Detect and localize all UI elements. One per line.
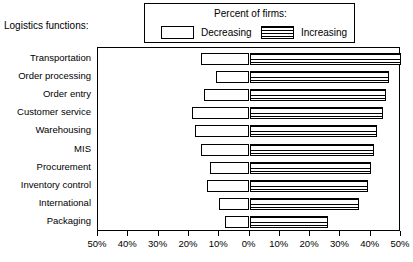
bar-decreasing bbox=[192, 107, 250, 119]
chart-root: Logistics functions: Percent of firms: D… bbox=[0, 0, 413, 262]
legend-label-increasing: Increasing bbox=[301, 27, 347, 38]
bar-row bbox=[98, 53, 399, 65]
x-axis-tick-label: 40% bbox=[355, 238, 385, 249]
x-axis-tick-label: 40% bbox=[112, 238, 142, 249]
plot-area bbox=[97, 47, 400, 231]
bar-increasing bbox=[250, 107, 383, 119]
x-axis-tick-labels: 50%40%30%20%10%0%10%20%30%40%50% bbox=[0, 238, 413, 252]
bar-row bbox=[98, 180, 399, 192]
x-axis-tick bbox=[400, 231, 401, 236]
bar-increasing bbox=[250, 162, 371, 174]
category-label: Packaging bbox=[0, 216, 94, 226]
x-axis-tick bbox=[97, 231, 98, 236]
bar-increasing bbox=[250, 144, 374, 156]
category-label: MIS bbox=[0, 144, 94, 154]
bar-increasing bbox=[250, 198, 359, 210]
x-axis-tick bbox=[127, 231, 128, 236]
bar-row bbox=[98, 198, 399, 210]
legend-entry-increasing: Increasing bbox=[261, 25, 347, 39]
bar-decreasing bbox=[210, 162, 249, 174]
x-axis-ticks bbox=[97, 231, 400, 236]
bar-row bbox=[98, 89, 399, 101]
x-axis-tick-label: 20% bbox=[173, 238, 203, 249]
category-label: Order entry bbox=[0, 89, 94, 99]
x-axis-tick-label: 20% bbox=[294, 238, 324, 249]
bar-row bbox=[98, 107, 399, 119]
bar-decreasing bbox=[219, 198, 249, 210]
bar-decreasing bbox=[195, 125, 250, 137]
category-label: Customer service bbox=[0, 107, 94, 117]
category-label: Inventory control bbox=[0, 180, 94, 190]
x-axis-tick-label: 30% bbox=[143, 238, 173, 249]
category-label: Procurement bbox=[0, 162, 94, 172]
legend-swatch-decreasing-icon bbox=[161, 26, 194, 39]
x-axis-tick-label: 0% bbox=[234, 238, 264, 249]
bar-row bbox=[98, 71, 399, 83]
x-axis-tick bbox=[370, 231, 371, 236]
legend-swatch-increasing-icon bbox=[261, 26, 294, 39]
x-axis-tick bbox=[309, 231, 310, 236]
legend-label-decreasing: Decreasing bbox=[201, 27, 252, 38]
bar-row bbox=[98, 162, 399, 174]
bars-container bbox=[98, 48, 399, 230]
bar-decreasing bbox=[204, 89, 249, 101]
chart-legend: Percent of firms: Decreasing Increasing bbox=[144, 3, 355, 43]
category-axis-labels: TransportationOrder processingOrder entr… bbox=[0, 47, 94, 231]
bar-row bbox=[98, 144, 399, 156]
bar-increasing bbox=[250, 53, 402, 65]
category-label: Order processing bbox=[0, 71, 94, 81]
x-axis-tick bbox=[339, 231, 340, 236]
category-label: Transportation bbox=[0, 53, 94, 63]
x-axis-tick-label: 10% bbox=[203, 238, 233, 249]
x-axis-tick bbox=[218, 231, 219, 236]
bar-decreasing bbox=[201, 144, 249, 156]
legend-title: Percent of firms: bbox=[145, 8, 356, 20]
x-axis-tick bbox=[188, 231, 189, 236]
bar-increasing bbox=[250, 125, 377, 137]
bar-decreasing bbox=[201, 53, 249, 65]
bar-increasing bbox=[250, 180, 368, 192]
bar-row bbox=[98, 125, 399, 137]
bar-decreasing bbox=[216, 71, 249, 83]
category-label: International bbox=[0, 198, 94, 208]
y-axis-title: Logistics functions: bbox=[4, 20, 89, 32]
bar-increasing bbox=[250, 71, 389, 83]
bar-row bbox=[98, 216, 399, 228]
category-label: Warehousing bbox=[0, 125, 94, 135]
x-axis-tick bbox=[249, 231, 250, 236]
bar-decreasing bbox=[207, 180, 249, 192]
x-axis-tick bbox=[279, 231, 280, 236]
legend-entry-decreasing: Decreasing bbox=[161, 25, 252, 39]
x-axis-tick-label: 50% bbox=[82, 238, 112, 249]
x-axis-tick-label: 10% bbox=[264, 238, 294, 249]
bar-increasing bbox=[250, 89, 386, 101]
bar-decreasing bbox=[225, 216, 249, 228]
x-axis-tick bbox=[158, 231, 159, 236]
x-axis-tick-label: 50% bbox=[385, 238, 413, 249]
bar-increasing bbox=[250, 216, 329, 228]
x-axis-tick-label: 30% bbox=[324, 238, 354, 249]
